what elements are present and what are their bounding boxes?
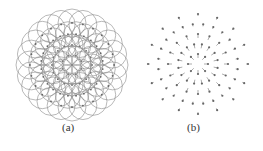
panel-b-arrows	[147, 13, 249, 115]
caption-b: (b)	[187, 121, 200, 133]
panel-a-circles	[16, 9, 128, 121]
figure-canvas	[0, 0, 263, 151]
caption-a: (a)	[62, 121, 74, 133]
